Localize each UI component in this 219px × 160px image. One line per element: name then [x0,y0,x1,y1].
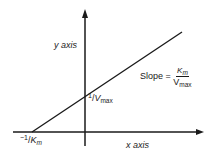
x-axis-label: x axis [126,141,149,150]
y-intercept-label: 1/Vmax [88,94,113,103]
slope-numerator: Km [176,67,189,77]
slope-annotation: Slope = Km Vmax [140,67,192,87]
x-intercept-label: −1/Km [20,136,42,145]
slope-denominator: Vmax [173,77,191,87]
y-axis-arrow-icon [82,9,88,18]
y-axis-label-text: y axis [54,40,77,50]
slope-fraction: Km Vmax [173,67,191,87]
km-m: m [182,69,187,76]
x-int-den-sub: m [37,139,42,146]
x-axis-arrow-icon [196,129,204,135]
slope-word: Slope = [140,71,171,81]
y-int-den-sub: max [100,97,112,104]
x-int-numerator: −1 [20,134,28,141]
x-axis-label-text: x axis [126,140,149,150]
vmax-max: max [179,81,191,88]
x-int-den: K [31,135,37,145]
y-axis-label: y axis [54,41,77,50]
y-int-numerator: 1 [88,92,92,99]
